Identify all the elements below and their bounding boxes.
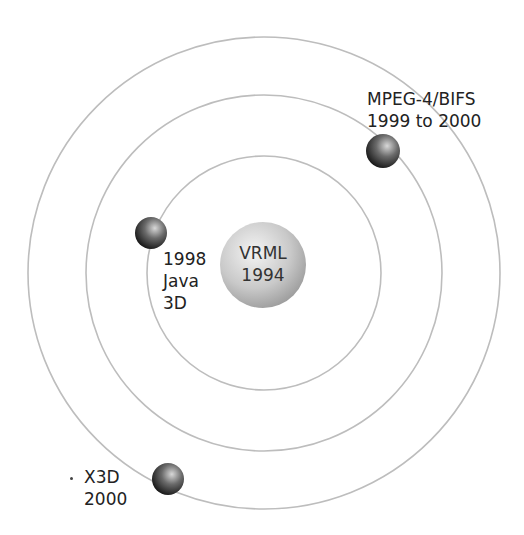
java3d-label: 1998 Java 3D [163, 248, 206, 314]
mpeg4-label: MPEG-4/BIFS 1999 to 2000 [367, 88, 481, 132]
mpeg4-years: 1999 to 2000 [367, 110, 481, 132]
mpeg4-planet-sphere [366, 134, 400, 168]
x3d-year: 2000 [84, 488, 127, 510]
vrml-year: 1994 [218, 264, 308, 286]
java3d-name-line2: 3D [163, 292, 206, 314]
stray-dot [70, 477, 73, 480]
vrml-name: VRML [218, 242, 308, 264]
java3d-planet-sphere [135, 217, 167, 249]
java3d-year: 1998 [163, 248, 206, 270]
x3d-planet-sphere [152, 463, 184, 495]
x3d-label: X3D 2000 [84, 466, 127, 510]
vrml-core-label: VRML 1994 [218, 242, 308, 286]
mpeg4-name: MPEG-4/BIFS [367, 88, 481, 110]
java3d-name-line1: Java [163, 270, 206, 292]
x3d-name: X3D [84, 466, 127, 488]
